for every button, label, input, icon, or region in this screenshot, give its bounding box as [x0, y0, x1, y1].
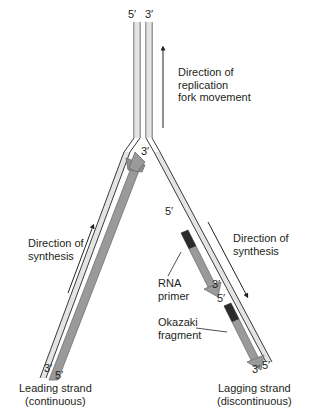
lagging-bottom-5prime: 5′: [262, 359, 270, 371]
okazaki-fragment-label: Okazaki fragment: [158, 316, 201, 341]
leading-arm: [40, 152, 145, 380]
lagging-synthesis-line1: Direction of: [233, 232, 289, 245]
replication-fork-diagram: [0, 0, 309, 408]
rna-primer-label: RNA primer: [158, 277, 189, 302]
okazaki-line2: fragment: [158, 329, 201, 342]
rna-primer-1: [181, 230, 196, 249]
leading-synthesis-line2: synthesis: [28, 250, 84, 263]
leading-strand-line2: (continuous): [19, 395, 92, 408]
leading-strand-line1: Leading strand: [19, 382, 92, 395]
fork-movement-line1: Direction of: [178, 66, 251, 79]
fork-movement-label: Direction of replication fork movement: [178, 66, 251, 104]
parental-strand-left: [124, 22, 134, 152]
lagging-strand-line2: (discontinuous): [217, 395, 292, 408]
leading-synthesis-line1: Direction of: [28, 237, 84, 250]
lagging-strand-label: Lagging strand (discontinuous): [217, 382, 292, 407]
leading-bottom-5prime: 5′: [55, 369, 63, 381]
fragment2-5prime: 5′: [217, 292, 225, 304]
fragment1-5prime: 5′: [165, 205, 173, 217]
leading-new-strand-3prime: 3′: [141, 145, 149, 157]
top-5prime-label: 5′: [128, 8, 136, 20]
lagging-strand-line1: Lagging strand: [217, 382, 292, 395]
fork-movement-line2: replication: [178, 79, 251, 92]
rna-primer-pointer: [168, 252, 181, 276]
fragment1-3prime: 3′: [212, 278, 220, 290]
parental-duplex: [124, 22, 160, 152]
fork-movement-line3: fork movement: [178, 91, 251, 104]
rna-primer-line2: primer: [158, 290, 189, 303]
top-3prime-label: 3′: [145, 8, 153, 20]
lagging-bottom-3prime: 3′: [252, 363, 260, 375]
lagging-synthesis-label: Direction of synthesis: [233, 232, 289, 257]
rna-primer-line1: RNA: [158, 277, 189, 290]
leading-bottom-3prime: 3′: [44, 362, 52, 374]
leading-new-strand: [49, 168, 140, 380]
lagging-synthesis-line2: synthesis: [233, 245, 289, 258]
leading-synthesis-label: Direction of synthesis: [28, 237, 84, 262]
okazaki-line1: Okazaki: [158, 316, 201, 329]
leading-strand-label: Leading strand (continuous): [19, 382, 92, 407]
